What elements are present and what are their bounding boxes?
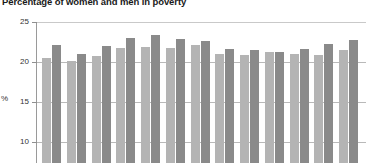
bar-women[interactable] [141,47,150,163]
bar-group [141,22,161,163]
y-tick-20 [32,62,37,63]
y-tick-label-15: 15 [0,97,29,106]
bar-women[interactable] [42,58,51,163]
bar-men[interactable] [349,40,358,163]
bar-group [42,22,62,163]
bar-group [240,22,260,163]
bar-men[interactable] [275,52,284,163]
y-tick-10 [32,142,37,143]
bar-group [166,22,186,163]
y-axis-tick-labels: 25201510 [0,22,29,163]
y-tick-label-20: 20 [0,57,29,66]
bar-women[interactable] [339,50,348,163]
bar-group [215,22,235,163]
bar-men[interactable] [225,49,234,163]
y-tick-25 [32,22,37,23]
bar-women[interactable] [92,56,101,163]
bar-women[interactable] [191,45,200,163]
bar-group [339,22,359,163]
bar-men[interactable] [52,45,61,163]
bar-men[interactable] [126,38,135,163]
bar-group [116,22,136,163]
plot-area [36,22,366,163]
bar-group [290,22,310,163]
bar-men[interactable] [201,41,210,163]
bar-group [67,22,87,163]
y-tick-label-25: 25 [0,17,29,26]
bar-men[interactable] [250,50,259,163]
bar-men[interactable] [151,35,160,163]
bar-women[interactable] [290,54,299,163]
bar-men[interactable] [300,49,309,163]
bar-women[interactable] [67,61,76,163]
bar-group [191,22,211,163]
bar-men[interactable] [77,54,86,163]
bar-men[interactable] [102,46,111,163]
bar-group [265,22,285,163]
bar-women[interactable] [314,55,323,163]
bar-women[interactable] [265,52,274,163]
bar-group [92,22,112,163]
y-tick-15 [32,102,37,103]
chart-container: Percentage of women and men in poverty %… [0,0,368,163]
bar-women[interactable] [116,48,125,163]
bar-women[interactable] [166,48,175,163]
y-tick-label-10: 10 [0,137,29,146]
chart-title: Percentage of women and men in poverty [2,0,186,7]
bar-men[interactable] [176,39,185,163]
bar-women[interactable] [240,55,249,163]
bar-men[interactable] [324,44,333,163]
bar-group [314,22,334,163]
bar-women[interactable] [215,54,224,163]
